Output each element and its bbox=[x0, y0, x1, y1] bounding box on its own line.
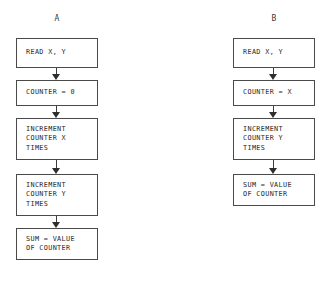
process-node-text: COUNTER = X bbox=[243, 88, 292, 98]
arrowhead-down-icon bbox=[269, 112, 277, 118]
column-label-a: A bbox=[16, 14, 98, 23]
arrowhead-down-icon bbox=[52, 222, 60, 228]
arrowhead-down-icon bbox=[52, 74, 60, 80]
process-node: SUM = VALUE OF COUNTER bbox=[233, 174, 315, 206]
process-node: INCREMENT COUNTER Y TIMES bbox=[233, 118, 315, 160]
arrowhead-down-icon bbox=[269, 168, 277, 174]
process-node: SUM = VALUE OF COUNTER bbox=[16, 228, 98, 260]
flow-column-b: READ X, Y COUNTER = X INCREMENT COUNTER … bbox=[233, 38, 315, 206]
process-node: INCREMENT COUNTER Y TIMES bbox=[16, 174, 98, 216]
flowchart-figure: A READ X, Y COUNTER = 0 INCREMENT COUNTE… bbox=[0, 0, 327, 305]
process-node-text: READ X, Y bbox=[26, 48, 66, 58]
arrowhead-down-icon bbox=[269, 74, 277, 80]
flow-connector-arrow bbox=[16, 106, 98, 118]
arrowhead-down-icon bbox=[52, 168, 60, 174]
flow-connector-arrow bbox=[16, 216, 98, 228]
flow-connector-arrow bbox=[16, 68, 98, 80]
process-node-text: INCREMENT COUNTER Y TIMES bbox=[243, 125, 283, 154]
flow-connector-arrow bbox=[16, 160, 98, 174]
column-label-b: B bbox=[233, 14, 315, 23]
process-node-text: INCREMENT COUNTER X TIMES bbox=[26, 125, 66, 154]
process-node: COUNTER = 0 bbox=[16, 80, 98, 106]
process-node-text: READ X, Y bbox=[243, 48, 283, 58]
process-node: INCREMENT COUNTER X TIMES bbox=[16, 118, 98, 160]
process-node: COUNTER = X bbox=[233, 80, 315, 106]
process-node-text: SUM = VALUE OF COUNTER bbox=[243, 181, 292, 200]
arrowhead-down-icon bbox=[52, 112, 60, 118]
process-node-text: COUNTER = 0 bbox=[26, 88, 75, 98]
flow-connector-arrow bbox=[233, 106, 315, 118]
process-node: READ X, Y bbox=[16, 38, 98, 68]
process-node: READ X, Y bbox=[233, 38, 315, 68]
process-node-text: SUM = VALUE OF COUNTER bbox=[26, 235, 75, 254]
flow-connector-arrow bbox=[233, 68, 315, 80]
flow-column-a: READ X, Y COUNTER = 0 INCREMENT COUNTER … bbox=[16, 38, 98, 260]
flow-connector-arrow bbox=[233, 160, 315, 174]
process-node-text: INCREMENT COUNTER Y TIMES bbox=[26, 181, 66, 210]
